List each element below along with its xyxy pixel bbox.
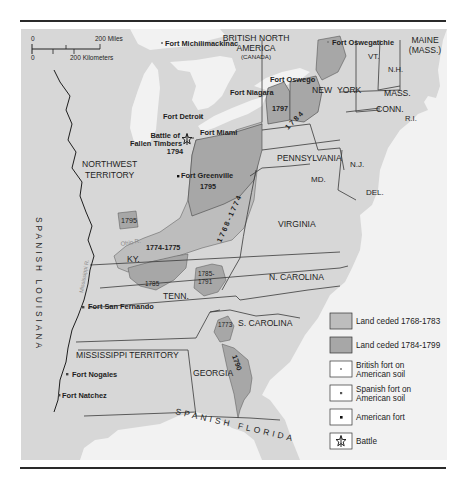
bottom-rule bbox=[20, 467, 446, 469]
label-canada: (CANADA) bbox=[241, 53, 271, 60]
label-north-carolina: N. CAROLINA bbox=[269, 272, 324, 282]
fort-greenville: Fort Greenville bbox=[181, 171, 233, 180]
label-territory: TERRITORY bbox=[85, 170, 135, 180]
label-maryland: MD. bbox=[311, 175, 326, 184]
spanish-fort-icon bbox=[66, 373, 68, 375]
top-rule bbox=[20, 20, 446, 22]
label-kentucky: KY. bbox=[127, 254, 140, 264]
legend-label-spanish-fort-2: American soil bbox=[356, 394, 405, 403]
fort-miami: Fort Miami bbox=[200, 128, 237, 137]
scale-km-label: 200 Kilometers bbox=[70, 54, 114, 61]
british-fort-icon bbox=[161, 42, 163, 44]
fort-san-fernando: Fort San Fernando bbox=[88, 302, 154, 311]
legend-swatch-1784-1799 bbox=[330, 337, 352, 353]
label-mississippi-territory: MISSISSIPPI TERRITORY bbox=[76, 350, 179, 360]
legend-label-american-fort: American fort bbox=[356, 413, 405, 422]
fort-niagara: Fort Niagara bbox=[230, 88, 274, 97]
legend-label-1784-1799: Land ceded 1784-1799 bbox=[356, 341, 441, 350]
label-maine-mass: (MASS.) bbox=[409, 45, 442, 55]
label-new-jersey: N.J. bbox=[350, 160, 364, 169]
label-spanish-louisiana: SPANISH LOUISIANA bbox=[34, 217, 44, 351]
label-america: AMERICA bbox=[236, 43, 275, 53]
label-new-york-2: YORK bbox=[337, 85, 362, 95]
legend-label-british-fort-1: British fort on bbox=[356, 361, 405, 370]
label-maine: MAINE bbox=[411, 35, 438, 45]
label-tennessee: TENN. bbox=[163, 291, 189, 301]
scale-zero-miles: 0 bbox=[31, 35, 35, 42]
fort-natchez: Fort Natchez bbox=[62, 391, 107, 400]
legend-label-spanish-fort-1: Spanish fort on bbox=[356, 385, 412, 394]
label-pennsylvania: PENNSYLVANIA bbox=[277, 153, 342, 163]
battle-year: 1794 bbox=[167, 147, 184, 156]
scale-miles-label: 200 Miles bbox=[95, 35, 124, 42]
fort-nogales: Fort Nogales bbox=[72, 370, 117, 379]
label-connecticut: CONN. bbox=[376, 104, 404, 114]
spanish-fort-icon bbox=[340, 392, 342, 394]
year-1785: 1785 bbox=[145, 280, 160, 287]
spanish-fort-icon bbox=[82, 306, 84, 308]
year-1785-a: 1785- bbox=[198, 270, 214, 277]
label-georgia: GEORGIA bbox=[193, 368, 233, 378]
fort-detroit: Fort Detroit bbox=[163, 112, 204, 121]
year-1795-ohio: 1795 bbox=[200, 182, 216, 191]
year-1774-1775: 1774-1775 bbox=[146, 243, 180, 252]
label-vermont: VT. bbox=[368, 52, 380, 61]
british-fort-icon bbox=[327, 41, 329, 43]
label-south-carolina: S. CAROLINA bbox=[238, 318, 293, 328]
british-fort-icon bbox=[192, 137, 194, 139]
legend-label-1768-1783: Land ceded 1768-1783 bbox=[356, 317, 441, 326]
label-new-york-1: NEW bbox=[312, 85, 333, 95]
fort-michilimackinac: Fort Michilimackinac bbox=[165, 39, 238, 48]
year-1773: 1773 bbox=[218, 321, 233, 328]
scale-zero-km: 0 bbox=[31, 54, 35, 61]
label-delaware: DEL. bbox=[366, 188, 384, 197]
label-northwest: NORTHWEST bbox=[82, 159, 138, 169]
year-1795-illinois: 1795 bbox=[121, 216, 137, 225]
label-virginia: VIRGINIA bbox=[278, 219, 316, 229]
year-1797: 1797 bbox=[272, 104, 288, 113]
year-1791: 1791 bbox=[198, 278, 213, 285]
spanish-fort-icon bbox=[58, 394, 60, 396]
label-rhode-island: R.I. bbox=[405, 114, 417, 123]
fort-oswegatchie: Fort Oswegatchie bbox=[332, 38, 394, 47]
american-fort-icon bbox=[340, 416, 343, 419]
label-new-hampshire: N.H. bbox=[388, 65, 403, 74]
label-massachusetts: MASS. bbox=[384, 88, 411, 98]
british-fort-icon bbox=[340, 368, 342, 370]
legend-swatch-1768-1783 bbox=[330, 313, 352, 329]
historical-map: 0 200 Miles 0 200 Kilometers BRITISH NOR… bbox=[21, 29, 447, 460]
american-fort-icon bbox=[177, 175, 179, 177]
fort-oswego: Fort Oswego bbox=[270, 75, 316, 84]
legend-label-battle: Battle bbox=[356, 437, 377, 446]
legend-label-british-fort-2: American soil bbox=[356, 370, 405, 379]
